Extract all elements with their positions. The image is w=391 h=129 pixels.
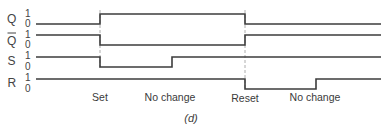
q-bar-waveform bbox=[36, 35, 381, 45]
r-level-high-label: 1 bbox=[25, 72, 31, 83]
r-level-low-label: 0 bbox=[25, 83, 31, 94]
q-waveform bbox=[36, 14, 381, 24]
svg-text:Q: Q bbox=[7, 34, 16, 48]
signal-name-q: Q bbox=[7, 12, 16, 26]
r-waveform bbox=[36, 79, 381, 89]
figure-caption: (d) bbox=[184, 112, 198, 124]
q-level-low-label: 0 bbox=[25, 18, 31, 29]
s-level-low-label: 0 bbox=[25, 61, 31, 72]
event-label-no-change-1: No change bbox=[145, 91, 196, 103]
signal-name-s: S bbox=[8, 54, 16, 68]
event-label-set: Set bbox=[92, 91, 108, 103]
event-label-reset: Reset bbox=[231, 92, 259, 104]
signal-name-r: R bbox=[8, 76, 17, 90]
s-level-high-label: 1 bbox=[25, 50, 31, 61]
signal-name-q-bar: Q bbox=[7, 33, 16, 48]
event-label-no-change-2: No change bbox=[290, 91, 341, 103]
sr-latch-timing-diagram: Q Q S R 1 0 1 0 1 0 1 0 Set No change Re… bbox=[0, 0, 391, 129]
s-waveform bbox=[36, 57, 381, 67]
q-bar-level-low-label: 0 bbox=[25, 39, 31, 50]
